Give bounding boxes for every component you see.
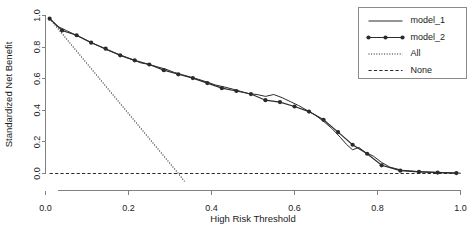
data-point-marker — [60, 28, 64, 32]
legend-label-None: None — [411, 65, 433, 75]
x-tick-label: 0.4 — [205, 203, 218, 213]
data-point-marker — [234, 89, 238, 93]
x-tick-label: 0.0 — [39, 203, 52, 213]
legend-label-model_1: model_1 — [411, 15, 446, 25]
y-tick-label: 0.6 — [32, 72, 42, 85]
y-tick-label: 0.2 — [32, 136, 42, 149]
data-point-marker — [336, 130, 340, 134]
data-point-marker — [118, 53, 122, 57]
x-tick-label: 0.2 — [122, 203, 135, 213]
data-point-marker — [205, 81, 209, 85]
data-point-marker — [176, 72, 180, 76]
data-point-marker — [263, 98, 267, 102]
data-point-marker — [380, 163, 384, 167]
x-tick-label: 0.8 — [371, 203, 384, 213]
x-tick-label: 1.0 — [454, 203, 467, 213]
data-point-marker — [220, 86, 224, 90]
data-point-marker — [249, 92, 253, 96]
y-axis-ticks: 0.00.20.40.60.81.0 — [32, 9, 46, 180]
y-axis-title: Standardized Net Benefit — [3, 41, 14, 147]
y-tick-label: 1.0 — [32, 9, 42, 22]
data-point-marker — [365, 152, 369, 156]
data-point-marker — [307, 109, 311, 113]
data-point-marker — [351, 143, 355, 147]
chart-legend: model_1model_2AllNone — [359, 8, 467, 79]
data-point-marker — [191, 76, 195, 80]
data-point-marker — [147, 62, 151, 66]
data-point-marker — [133, 58, 137, 62]
data-point-marker — [75, 33, 79, 37]
dca-plot-root: 0.00.20.40.60.81.0 0.00.20.40.60.81.0 St… — [0, 0, 469, 233]
data-point-marker — [104, 47, 108, 51]
y-tick-label: 0.8 — [32, 41, 42, 54]
legend-label-model_2: model_2 — [411, 32, 446, 42]
legend-swatch-marker — [366, 35, 370, 39]
x-axis-ticks: 0.00.20.40.60.81.0 — [39, 191, 467, 213]
legend-label-All: All — [411, 48, 421, 58]
data-point-marker — [292, 104, 296, 108]
x-axis-title: High Risk Threshold — [210, 213, 295, 224]
chart-canvas: 0.00.20.40.60.81.0 0.00.20.40.60.81.0 St… — [0, 0, 469, 233]
y-tick-label: 0.0 — [32, 167, 42, 180]
y-tick-label: 0.4 — [32, 104, 42, 117]
data-point-marker — [278, 100, 282, 104]
x-tick-label: 0.6 — [288, 203, 301, 213]
data-point-marker — [398, 169, 402, 173]
legend-swatch-marker — [383, 35, 387, 39]
series-line-All — [50, 19, 185, 182]
data-point-marker — [89, 41, 93, 45]
data-point-marker — [321, 118, 325, 122]
legend-swatch-marker — [400, 35, 404, 39]
data-point-marker — [162, 68, 166, 72]
